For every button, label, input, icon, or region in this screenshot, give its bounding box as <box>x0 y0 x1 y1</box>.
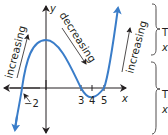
side-note-upper-line2: x <box>161 42 168 53</box>
tick-label-neg2: −2 <box>24 98 39 109</box>
tick-label-4: 4 <box>89 95 95 106</box>
side-note-lower-line2: x <box>161 104 168 115</box>
function-graph: y x −2 3 4 5 increasing decreasing incre… <box>0 0 168 135</box>
x-axis-label: x <box>121 93 128 104</box>
side-note-lower-line1: T <box>161 89 168 100</box>
brace-upper <box>151 4 160 55</box>
tick-label-5: 5 <box>101 95 107 106</box>
side-note-upper-line1: T <box>161 27 168 38</box>
interval-label-increasing-right: increasing <box>123 19 149 74</box>
curve-left-arrow <box>15 116 17 130</box>
tick-label-3: 3 <box>78 95 84 106</box>
brace-lower <box>151 62 160 134</box>
y-axis-label: y <box>49 3 57 14</box>
